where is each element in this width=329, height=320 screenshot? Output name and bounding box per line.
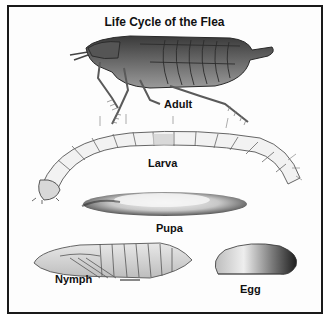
egg-drawing [215, 244, 296, 275]
stage-label-larva: Larva [148, 157, 177, 169]
pupa-drawing [82, 192, 247, 216]
diagram-title: Life Cycle of the Flea [0, 15, 329, 29]
stage-label-pupa: Pupa [156, 222, 183, 234]
adult-flea-drawing [70, 36, 273, 125]
stage-label-nymph: Nymph [55, 273, 92, 285]
stage-label-adult: Adult [164, 98, 192, 110]
stage-label-egg: Egg [240, 283, 261, 295]
